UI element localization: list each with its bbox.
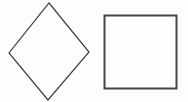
diamond-shape — [9, 3, 89, 100]
shapes-diagram — [0, 0, 188, 102]
square-shape — [105, 16, 177, 89]
diagram-canvas — [0, 0, 188, 102]
